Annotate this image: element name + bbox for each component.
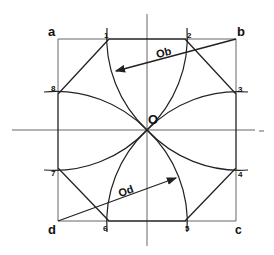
octagon-construction-diagram: a b c d O 1 2 3 4 5 6 7 8 Ob Od: [0, 0, 274, 255]
center-label-o: O: [148, 112, 158, 127]
arc-centered-d: [44, 91, 187, 232]
point-label-4: 4: [238, 170, 243, 179]
point-label-3: 3: [238, 85, 243, 94]
corner-label-d: d: [48, 222, 56, 237]
arc-centered-c: [107, 92, 248, 232]
radius-line-od: [58, 178, 176, 221]
arc-centered-b: [107, 28, 248, 170]
point-label-8: 8: [51, 84, 56, 93]
point-label-1: 1: [104, 31, 109, 40]
corner-label-c: c: [235, 223, 242, 237]
radius-line-ob: [116, 39, 236, 71]
corner-label-b: b: [237, 24, 245, 39]
point-label-7: 7: [51, 169, 56, 178]
point-label-5: 5: [185, 224, 190, 233]
point-label-6: 6: [103, 224, 108, 233]
radius-label-od: Od: [117, 183, 135, 200]
point-label-2: 2: [187, 31, 192, 40]
radius-label-ob: Ob: [155, 45, 173, 61]
corner-label-a: a: [48, 24, 56, 39]
